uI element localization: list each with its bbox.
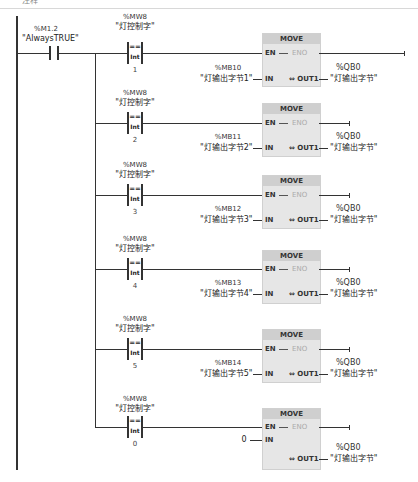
wire: [279, 53, 288, 54]
compare-value[interactable]: 5: [127, 362, 143, 370]
wire: [319, 195, 349, 196]
wire: [95, 53, 127, 54]
compare-symbol: "灯控制字": [110, 22, 160, 32]
wire: [319, 269, 349, 270]
compare-instruction[interactable]: == Int: [127, 258, 143, 280]
rung-end: [349, 347, 350, 352]
rung-end: [404, 51, 405, 56]
no-contact-left[interactable]: [49, 46, 51, 60]
wire: [17, 53, 49, 54]
out-address: %QB0: [336, 204, 360, 214]
branch-bus: [95, 53, 96, 427]
pin-en: EN: [265, 191, 276, 199]
compare-operator: ==: [127, 339, 143, 347]
wire: [319, 374, 328, 375]
compare-type: Int: [127, 269, 143, 277]
in-symbol[interactable]: "灯输出字节5": [200, 369, 250, 379]
network-comment[interactable]: 注释: [22, 0, 38, 5]
out-address: %QB0: [336, 443, 360, 453]
move-title: MOVE: [263, 251, 320, 261]
out-address: %QB0: [336, 63, 360, 73]
out-symbol[interactable]: "灯输出字节": [330, 369, 377, 379]
pin-out: ⇔ OUT1: [289, 455, 319, 463]
pin-en: EN: [265, 119, 276, 127]
in-symbol[interactable]: "灯输出字节3": [200, 215, 250, 225]
wire: [319, 220, 328, 221]
wire: [143, 269, 262, 270]
pin-en: EN: [265, 423, 276, 431]
compare-value[interactable]: 4: [127, 282, 143, 290]
in-value[interactable]: 0: [240, 435, 248, 445]
compare-operator: ==: [127, 417, 143, 425]
pin-eno: ENO: [292, 119, 307, 127]
pin-out-label: OUT1: [297, 144, 318, 152]
wire: [59, 53, 95, 54]
wire: [319, 148, 328, 149]
compare-operator: ==: [127, 43, 143, 51]
wire: [253, 79, 262, 80]
pin-eno: ENO: [292, 265, 307, 273]
wire: [143, 53, 262, 54]
pin-eno: ENO: [292, 191, 307, 199]
compare-value[interactable]: 0: [127, 440, 143, 448]
in-symbol[interactable]: "灯输出字节2": [200, 143, 250, 153]
wire: [253, 294, 262, 295]
compare-instruction[interactable]: == Int: [127, 112, 143, 134]
pin-in: IN: [265, 144, 273, 152]
compare-address: %MW8: [115, 394, 155, 404]
wire: [319, 459, 328, 460]
wire: [95, 349, 127, 350]
compare-type: Int: [127, 349, 143, 357]
wire: [143, 195, 262, 196]
out-symbol[interactable]: "灯输出字节": [330, 215, 377, 225]
pin-en: EN: [265, 265, 276, 273]
out-symbol[interactable]: "灯输出字节": [330, 454, 377, 464]
compare-instruction[interactable]: == Int: [127, 416, 143, 438]
compare-operator: ==: [127, 185, 143, 193]
rung-end: [349, 121, 350, 126]
out-address: %QB0: [336, 358, 360, 368]
in-symbol[interactable]: "灯输出字节1": [200, 74, 250, 84]
in-address: %MB12: [208, 204, 248, 214]
compare-address: %MW8: [115, 160, 155, 170]
pin-out-label: OUT1: [297, 290, 318, 298]
wire: [279, 349, 288, 350]
wire: [279, 269, 288, 270]
pin-out: ⇔ OUT1: [289, 144, 319, 152]
wire: [319, 427, 349, 428]
pin-out: ⇔ OUT1: [289, 290, 319, 298]
out-address: %QB0: [336, 132, 360, 142]
compare-value[interactable]: 3: [127, 208, 143, 216]
pin-out: ⇔ OUT1: [289, 216, 319, 224]
compare-instruction[interactable]: == Int: [127, 338, 143, 360]
compare-symbol: "灯控制字": [110, 98, 160, 108]
wire: [253, 148, 262, 149]
compare-symbol: "灯控制字": [110, 404, 160, 414]
rung-end: [349, 193, 350, 198]
wire: [143, 427, 262, 428]
wire: [279, 427, 288, 428]
rung-end: [349, 267, 350, 272]
compare-instruction[interactable]: == Int: [127, 184, 143, 206]
out-symbol[interactable]: "灯输出字节": [330, 143, 377, 153]
compare-symbol: "灯控制字": [110, 244, 160, 254]
in-symbol[interactable]: "灯输出字节4": [200, 289, 250, 299]
wire: [319, 349, 349, 350]
compare-type: Int: [127, 427, 143, 435]
move-title: MOVE: [263, 409, 320, 419]
wire: [95, 269, 127, 270]
pin-in: IN: [265, 216, 273, 224]
out-symbol[interactable]: "灯输出字节": [330, 74, 377, 84]
wire: [250, 440, 262, 441]
compare-value[interactable]: 1: [127, 66, 143, 74]
wire: [319, 294, 328, 295]
pin-en: EN: [265, 49, 276, 57]
wire: [95, 195, 127, 196]
compare-instruction[interactable]: == Int: [127, 42, 143, 64]
compare-symbol: "灯控制字": [110, 170, 160, 180]
wire: [143, 349, 262, 350]
compare-type: Int: [127, 123, 143, 131]
out-symbol[interactable]: "灯输出字节": [330, 289, 377, 299]
compare-value[interactable]: 2: [127, 136, 143, 144]
rung-end: [349, 425, 350, 430]
